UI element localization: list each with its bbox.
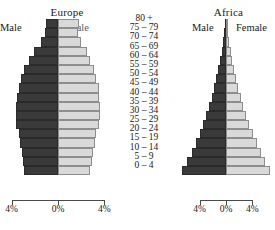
bar-female — [226, 148, 261, 157]
bar-male — [19, 83, 58, 92]
bar-male — [24, 166, 58, 175]
pyramid-row — [176, 157, 275, 166]
pyramid-row — [176, 102, 275, 111]
bar-male — [196, 138, 226, 147]
bar-female — [226, 28, 228, 37]
bar-male — [214, 83, 226, 92]
bar-female — [58, 19, 79, 28]
bar-female — [226, 138, 257, 147]
bar-female — [226, 56, 232, 65]
pyramid-row — [176, 37, 275, 46]
population-pyramid-figure: Europe Male Female 4%0%4% 80 +75 – 7970 … — [0, 0, 275, 230]
panel-title-europe: Europe — [0, 6, 112, 18]
bar-female — [58, 129, 96, 138]
bar-male — [200, 129, 226, 138]
bar-female — [58, 93, 99, 102]
pyramid-row — [0, 129, 112, 138]
pyramid-row — [0, 111, 112, 120]
pyramid-row — [0, 148, 112, 157]
pyramid-row — [176, 19, 275, 28]
bar-male — [17, 93, 58, 102]
bar-female — [226, 74, 236, 83]
bar-female — [58, 111, 100, 120]
bar-female — [58, 65, 94, 74]
bar-female — [226, 111, 246, 120]
pyramid-row — [0, 83, 112, 92]
bar-male — [45, 28, 58, 37]
axis-tick-label: 4% — [98, 204, 111, 214]
pyramid-row — [0, 102, 112, 111]
bar-female — [226, 93, 241, 102]
pyramid-row — [0, 74, 112, 83]
pyramid-bars-africa — [176, 19, 275, 175]
bar-female — [226, 47, 231, 56]
pyramid-row — [0, 56, 112, 65]
axis-tick-label: 0% — [52, 204, 65, 214]
pyramid-row — [0, 157, 112, 166]
bar-female — [58, 138, 95, 147]
bar-male — [209, 102, 226, 111]
bar-female — [226, 102, 243, 111]
bar-female — [58, 120, 99, 129]
bar-male — [21, 74, 58, 83]
age-group-labels: 80 +75 – 7970 – 7465 – 6960 – 6455 – 595… — [112, 14, 176, 170]
bar-female — [58, 74, 96, 83]
bar-male — [41, 37, 58, 46]
pyramid-row — [176, 93, 275, 102]
bar-male — [34, 47, 58, 56]
pyramid-row — [176, 111, 275, 120]
pyramid-row — [176, 56, 275, 65]
axis-tick-label: 4% — [246, 204, 259, 214]
pyramid-row — [0, 120, 112, 129]
pyramid-row — [0, 65, 112, 74]
bar-male — [20, 138, 58, 147]
panel-europe: Europe Male Female 4%0%4% — [0, 0, 112, 230]
panel-title-africa: Africa — [176, 6, 275, 18]
bar-female — [58, 102, 100, 111]
axis-tick-label: 0% — [220, 204, 233, 214]
bar-female — [58, 148, 93, 157]
pyramid-row — [176, 74, 275, 83]
pyramid-row — [176, 166, 275, 175]
pyramid-row — [0, 19, 112, 28]
bar-female — [226, 120, 249, 129]
pyramid-row — [176, 83, 275, 92]
age-group-label: 0 – 4 — [112, 161, 176, 170]
bar-female — [58, 166, 90, 175]
bar-male — [187, 157, 226, 166]
pyramid-row — [176, 28, 275, 37]
axis-africa: 4%0%4% — [176, 196, 275, 218]
pyramid-row — [0, 28, 112, 37]
bar-female — [226, 157, 265, 166]
bar-male — [16, 102, 58, 111]
pyramid-row — [176, 120, 275, 129]
bar-female — [226, 37, 229, 46]
axis-tick-label: 4% — [193, 204, 206, 214]
axis-tick-label: 4% — [5, 204, 18, 214]
pyramid-row — [176, 129, 275, 138]
pyramid-row — [176, 148, 275, 157]
bar-female — [226, 19, 228, 28]
bar-male — [19, 129, 58, 138]
bar-female — [226, 65, 234, 74]
bar-male — [182, 166, 226, 175]
bar-female — [226, 129, 253, 138]
pyramid-row — [176, 65, 275, 74]
pyramid-bars-europe — [0, 19, 112, 175]
bar-female — [58, 56, 90, 65]
bar-female — [58, 28, 78, 37]
bar-male — [23, 157, 58, 166]
panel-africa: Africa Male Female 4%0%4% — [176, 0, 275, 230]
bar-male — [16, 111, 58, 120]
bar-female — [226, 166, 270, 175]
bar-female — [58, 47, 87, 56]
pyramid-row — [0, 166, 112, 175]
pyramid-row — [176, 47, 275, 56]
bar-female — [58, 37, 81, 46]
bar-male — [192, 148, 226, 157]
bar-male — [203, 120, 226, 129]
bar-male — [24, 65, 58, 74]
pyramid-row — [0, 47, 112, 56]
bar-male — [216, 74, 226, 83]
bar-male — [218, 65, 226, 74]
